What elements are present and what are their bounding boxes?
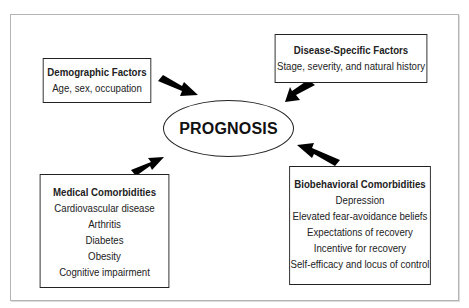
prognosis-label: PROGNOSIS	[179, 120, 278, 138]
medical-item: Cardiovascular disease	[41, 200, 169, 216]
demographic-factors-box: Demographic Factors Age, sex, occupation	[43, 58, 152, 103]
medical-comorbidities-box: Medical Comorbidities Cardiovascular dis…	[40, 174, 170, 288]
disease-item: Stage, severity, and natural history	[276, 58, 427, 74]
medical-item: Arthritis	[41, 216, 169, 232]
medical-item: Cognitive impairment	[41, 264, 169, 280]
demographic-item: Age, sex, occupation	[44, 80, 151, 96]
biobehavioral-item: Expectations of recovery	[290, 224, 430, 240]
biobehavioral-item: Incentive for recovery	[290, 240, 430, 256]
disease-specific-factors-box: Disease-Specific Factors Stage, severity…	[275, 34, 428, 83]
biobehavioral-comorbidities-box: Biobehavioral Comorbidities Depression E…	[289, 166, 431, 285]
prognosis-ellipse: PROGNOSIS	[163, 100, 294, 157]
biobehavioral-item: Elevated fear-avoidance beliefs	[290, 208, 430, 224]
demographic-factors-title: Demographic Factors	[44, 64, 151, 80]
medical-item: Obesity	[41, 248, 169, 264]
biobehavioral-comorbidities-title: Biobehavioral Comorbidities	[290, 176, 430, 192]
biobehavioral-item: Self-efficacy and locus of control	[290, 256, 430, 272]
disease-specific-factors-title: Disease-Specific Factors	[276, 42, 427, 58]
medical-comorbidities-title: Medical Comorbidities	[41, 184, 169, 200]
biobehavioral-item: Depression	[290, 192, 430, 208]
medical-item: Diabetes	[41, 232, 169, 248]
